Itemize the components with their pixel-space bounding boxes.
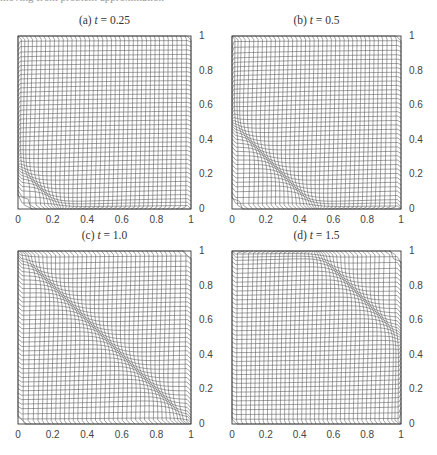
mesh-plot — [18, 251, 191, 424]
x-tick-label: 1 — [389, 429, 413, 440]
x-tick-label: 0.4 — [288, 429, 312, 440]
y-tick-label: 0.2 — [199, 168, 213, 179]
y-tick-label: 0.2 — [409, 168, 423, 179]
x-tick-label: 0.2 — [254, 429, 278, 440]
y-tick-label: 0.4 — [409, 134, 423, 145]
y-tick-label: 0 — [409, 418, 415, 429]
mesh-lines — [18, 36, 191, 209]
mesh-plot — [232, 36, 401, 209]
x-tick-label: 0 — [220, 429, 244, 440]
y-tick-label: 1 — [199, 245, 205, 256]
x-tick-label: 0.8 — [144, 429, 168, 440]
y-tick-label: 1 — [199, 30, 205, 41]
x-tick-label: 1 — [179, 214, 203, 225]
mesh-lines — [18, 251, 191, 424]
panel-label: (a) — [79, 14, 95, 26]
mesh-lines — [232, 251, 401, 424]
y-tick-label: 0.4 — [199, 349, 213, 360]
mesh-plot — [18, 36, 191, 209]
y-tick-label: 0.2 — [409, 383, 423, 394]
x-tick-label: 0.2 — [41, 214, 65, 225]
cropped-header-text: moving front problem approximation — [0, 0, 437, 3]
y-tick-label: 0 — [199, 203, 205, 214]
panel-title: (a) t = 0.25 — [18, 14, 191, 26]
x-tick-label: 0.4 — [75, 214, 99, 225]
panel-title: (d) t = 1.5 — [232, 229, 401, 241]
y-tick-label: 1 — [409, 245, 415, 256]
y-tick-label: 0.8 — [199, 280, 213, 291]
time-value: = 1.5 — [313, 229, 340, 241]
y-tick-label: 0.6 — [199, 99, 213, 110]
y-tick-label: 0 — [199, 418, 205, 429]
x-tick-label: 0.4 — [75, 429, 99, 440]
y-tick-label: 0.6 — [409, 314, 423, 325]
x-tick-label: 0.6 — [110, 429, 134, 440]
y-tick-label: 0.4 — [199, 134, 213, 145]
panel-label: (d) — [293, 229, 309, 241]
x-tick-label: 0.2 — [254, 214, 278, 225]
y-tick-label: 1 — [409, 30, 415, 41]
x-tick-label: 0.8 — [355, 429, 379, 440]
panel-title: (b) t = 0.5 — [232, 14, 401, 26]
panel-label: (c) — [82, 229, 98, 241]
x-tick-label: 0.2 — [41, 429, 65, 440]
panel-label: (b) — [293, 14, 309, 26]
plot-frame — [232, 36, 401, 209]
x-tick-label: 1 — [179, 429, 203, 440]
time-value: = 0.5 — [313, 14, 340, 26]
mesh-plot — [232, 251, 401, 424]
x-tick-label: 0.6 — [321, 214, 345, 225]
x-tick-label: 0.6 — [321, 429, 345, 440]
x-tick-label: 0 — [220, 214, 244, 225]
time-value: = 1.0 — [101, 229, 128, 241]
x-tick-label: 0.8 — [144, 214, 168, 225]
x-tick-label: 1 — [389, 214, 413, 225]
x-tick-label: 0.8 — [355, 214, 379, 225]
y-tick-label: 0.2 — [199, 383, 213, 394]
time-value: = 0.25 — [98, 14, 130, 26]
x-tick-label: 0.6 — [110, 214, 134, 225]
y-tick-label: 0.8 — [409, 280, 423, 291]
y-tick-label: 0.6 — [199, 314, 213, 325]
y-tick-label: 0 — [409, 203, 415, 214]
plot-frame — [232, 251, 401, 424]
x-tick-label: 0 — [6, 214, 30, 225]
mesh-lines — [232, 36, 401, 209]
y-tick-label: 0.6 — [409, 99, 423, 110]
y-tick-label: 0.8 — [199, 65, 213, 76]
x-tick-label: 0 — [6, 429, 30, 440]
panel-title: (c) t = 1.0 — [18, 229, 191, 241]
y-tick-label: 0.4 — [409, 349, 423, 360]
x-tick-label: 0.4 — [288, 214, 312, 225]
y-tick-label: 0.8 — [409, 65, 423, 76]
